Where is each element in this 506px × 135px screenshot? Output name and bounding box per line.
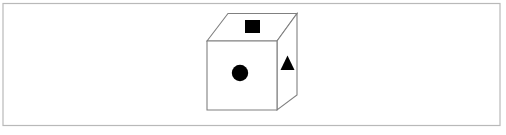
cube-figure-svg: [0, 0, 506, 135]
square-mark: [245, 20, 260, 33]
cube-group: [207, 14, 297, 111]
figure-canvas: [0, 0, 506, 135]
circle-mark: [232, 65, 248, 81]
